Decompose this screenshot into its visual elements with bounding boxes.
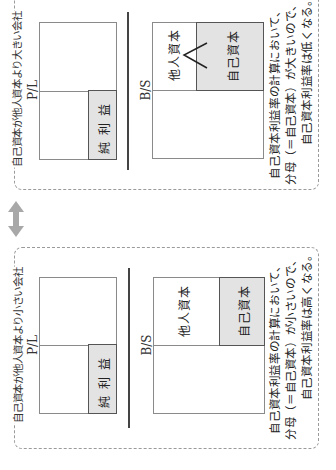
note-line-2: 分母（＝自己資本）が小さいので、 bbox=[282, 254, 298, 440]
less-than-mark bbox=[184, 43, 207, 68]
equity-label: 自己資本 bbox=[235, 285, 252, 337]
pl-divider bbox=[39, 345, 89, 346]
panel-title-small-equity: 自己資本が他人資本より小さい会社 bbox=[10, 266, 25, 423]
section-separator bbox=[128, 268, 130, 428]
pl-label: P/L bbox=[26, 335, 40, 355]
bs-label: B/S bbox=[140, 334, 154, 355]
bs-divider bbox=[153, 345, 220, 346]
net-income-label: 純利益 bbox=[95, 351, 112, 408]
note-line-1: 自己資本利益率の計算において、 bbox=[266, 261, 282, 434]
liabilities-label: 他人資本 bbox=[175, 285, 192, 337]
note-line-3: 自己資本利益率は高くなる。 bbox=[298, 250, 314, 401]
